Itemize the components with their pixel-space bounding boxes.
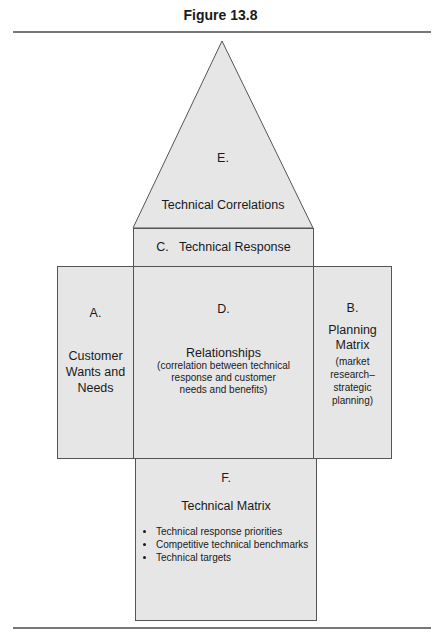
section-e-letter: E.	[133, 151, 313, 165]
label-line: Customer	[58, 348, 133, 364]
sub-line: (market	[314, 355, 391, 368]
section-f-letter: F.	[136, 471, 316, 485]
section-a-label: Customer Wants and Needs	[58, 348, 133, 396]
label-line: Matrix	[314, 338, 391, 353]
section-a-letter: A.	[58, 306, 133, 320]
section-d-box: D. Relationships (correlation between te…	[133, 266, 314, 459]
section-c-box: C. Technical Response	[133, 228, 314, 267]
section-c-label: C. Technical Response	[134, 240, 313, 254]
bullet-item: Technical targets	[156, 551, 310, 564]
section-b-label: Planning Matrix	[314, 323, 391, 353]
section-b-sub: (market research– strategic planning)	[314, 355, 391, 407]
section-a-box: A. Customer Wants and Needs	[57, 266, 134, 459]
section-d-sub: (correlation between technical response …	[134, 360, 313, 396]
section-f-bullets: Technical response priorities Competitiv…	[142, 525, 310, 564]
section-f-label: Technical Matrix	[136, 499, 316, 513]
sub-line: research–	[314, 368, 391, 381]
section-b-letter: B.	[314, 301, 391, 315]
section-d-label: Relationships	[134, 346, 313, 360]
section-e-label: Technical Correlations	[133, 198, 313, 212]
sub-line: planning)	[314, 394, 391, 407]
label-line: Planning	[314, 323, 391, 338]
section-d-letter: D.	[134, 302, 313, 316]
bottom-rule	[13, 627, 431, 629]
section-b-box: B. Planning Matrix (market research– str…	[313, 266, 392, 459]
sub-line: (correlation between technical	[134, 360, 313, 372]
sub-line: strategic	[314, 381, 391, 394]
label-line: Needs	[58, 380, 133, 396]
bullet-item: Competitive technical benchmarks	[156, 538, 310, 551]
sub-line: needs and benefits)	[134, 384, 313, 396]
section-f-box: F. Technical Matrix Technical response p…	[135, 458, 317, 621]
label-line: Wants and	[58, 364, 133, 380]
sub-line: response and customer	[134, 372, 313, 384]
bullet-item: Technical response priorities	[156, 525, 310, 538]
